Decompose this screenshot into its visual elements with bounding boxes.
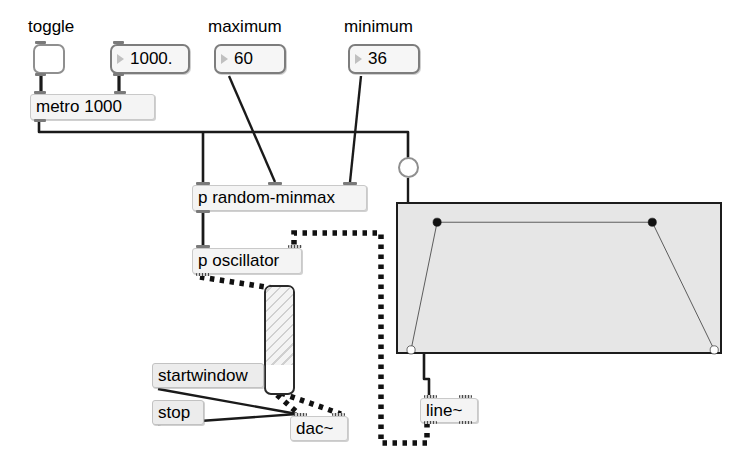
function-envelope-editor[interactable] [396,202,722,354]
oscillator-outlet [196,273,210,276]
envelope-breakpoint-3[interactable] [710,346,718,354]
minimum-value: 36 [366,49,387,69]
random-minmax-outlet [196,210,210,213]
maximum-value: 60 [232,49,253,69]
oscillator-inlet-left [196,245,210,248]
comment-maximum: maximum [208,18,282,35]
envelope-line [411,222,714,350]
p-random-minmax-label: p random-minmax [198,188,335,208]
envelope-breakpoint-1[interactable] [433,218,441,226]
line-label: line~ [426,401,462,421]
p-oscillator-label: p oscillator [198,251,279,271]
p-oscillator-object[interactable]: p oscillator [192,248,302,274]
random-minmax-inlet-left [196,182,210,185]
number-flag-icon [221,54,228,64]
metro-inlet-left [34,91,46,94]
metro-inlet-right [114,91,126,94]
random-minmax-inlet-right [343,182,357,185]
p-random-minmax-object[interactable]: p random-minmax [192,185,367,211]
max-patch-canvas: toggle maximum minimum 1000. 60 36 metro… [0,0,744,471]
gain-slider[interactable] [264,285,295,395]
number-flag-icon [355,54,362,64]
line-outlet-left [424,421,437,424]
patch-objects: toggle maximum minimum 1000. 60 36 metro… [0,0,744,471]
comment-minimum: minimum [344,18,413,35]
toggle-inlet [35,41,46,44]
stop-message[interactable]: stop [152,400,204,425]
line-inlet-right [459,395,472,398]
gain-slider-fill [266,287,293,365]
float-number-outlet [113,73,124,76]
stop-label: stop [158,403,190,423]
minimum-number-box[interactable]: 36 [348,44,420,74]
startwindow-label: startwindow [158,366,248,386]
line-outlet-right [459,421,472,424]
dac-inlet-left [294,413,307,416]
maximum-number-box[interactable]: 60 [214,44,286,74]
random-minmax-inlet-middle [268,182,282,185]
metro-outlet [34,119,46,122]
line-inlet-left [424,395,437,398]
toggle-outlet [35,73,46,76]
dac-label: dac~ [296,419,333,439]
float-number-box[interactable]: 1000. [110,44,190,74]
dac-object[interactable]: dac~ [290,416,348,441]
oscillator-inlet-right [288,245,302,248]
dac-inlet-right [332,413,345,416]
float-number-value: 1000. [128,49,173,69]
number-flag-icon [117,54,124,64]
metro-object-label: metro 1000 [36,97,122,117]
float-number-inlet [113,41,124,44]
metro-object[interactable]: metro 1000 [30,94,155,120]
envelope-breakpoint-0[interactable] [407,346,415,354]
envelope-breakpoint-2[interactable] [648,218,656,226]
bang-object[interactable] [398,157,419,178]
function-envelope-plot[interactable] [398,204,724,356]
startwindow-message[interactable]: startwindow [152,363,264,388]
toggle-object[interactable] [33,44,65,74]
line-object[interactable]: line~ [420,398,478,423]
comment-toggle: toggle [28,18,74,35]
